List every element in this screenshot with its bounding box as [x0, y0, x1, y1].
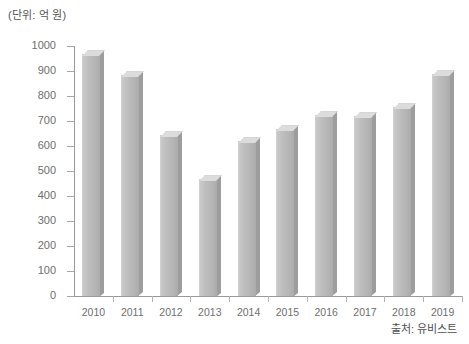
x-axis-tick [423, 296, 424, 302]
x-axis-tick [190, 296, 191, 302]
x-axis-tick [268, 296, 269, 302]
y-axis-tick-label: 400 [38, 189, 56, 201]
bar-front-face [354, 116, 372, 296]
bar-2012 [160, 135, 177, 296]
x-axis-tick [346, 296, 347, 302]
bar-front-face [121, 75, 139, 296]
bar-front-face [276, 129, 294, 297]
bar-front-face [82, 54, 100, 297]
x-axis-tick [113, 296, 114, 302]
y-axis-line [74, 46, 75, 296]
y-axis-tick-label: 500 [38, 164, 56, 176]
bar-2014 [238, 141, 255, 296]
y-axis-tick-label: 600 [38, 139, 56, 151]
y-axis-tick-label: 700 [38, 114, 56, 126]
x-axis-label-2018: 2018 [392, 306, 415, 318]
bar-2018 [393, 107, 410, 296]
bar-2017 [354, 116, 371, 296]
x-axis-label-2015: 2015 [276, 306, 299, 318]
x-axis-tick [229, 296, 230, 302]
x-axis-tick [462, 296, 463, 302]
unit-label: (단위: 억 원) [8, 6, 66, 22]
y-axis-tick: 300 [67, 221, 74, 222]
y-axis-tick: 600 [67, 146, 74, 147]
y-axis-tick: 1000 [67, 46, 74, 47]
bar-2010 [82, 54, 99, 297]
y-axis-tick: 900 [67, 71, 74, 72]
y-axis-tick: 400 [67, 196, 74, 197]
bar-2019 [432, 74, 449, 297]
bar-front-face [432, 74, 450, 297]
y-axis-tick: 200 [67, 246, 74, 247]
bar-front-face [393, 107, 411, 296]
y-axis-tick: 0 [67, 296, 74, 297]
x-axis-label-2012: 2012 [159, 306, 182, 318]
x-axis-label-2013: 2013 [198, 306, 221, 318]
bar-front-face [160, 135, 178, 296]
x-axis-tick [307, 296, 308, 302]
bar-2016 [315, 115, 332, 296]
y-axis-tick: 100 [67, 271, 74, 272]
bar-2015 [276, 129, 293, 297]
x-axis-label-2016: 2016 [315, 306, 338, 318]
x-axis-label-2014: 2014 [237, 306, 260, 318]
y-axis-tick-label: 1000 [32, 39, 56, 51]
y-axis-tick-label: 200 [38, 239, 56, 251]
x-axis-label-2019: 2019 [431, 306, 454, 318]
y-axis-tick-label: 900 [38, 64, 56, 76]
bar-front-face [238, 141, 256, 296]
bar-chart: (단위: 억 원) 010020030040050060070080090010… [0, 0, 469, 344]
y-axis-tick: 700 [67, 121, 74, 122]
y-axis-tick-label: 800 [38, 89, 56, 101]
bar-2013 [199, 179, 216, 297]
bar-2011 [121, 75, 138, 296]
y-axis-tick: 500 [67, 171, 74, 172]
y-axis-tick-label: 100 [38, 264, 56, 276]
x-axis-tick [384, 296, 385, 302]
bar-front-face [199, 179, 217, 297]
y-axis-tick: 800 [67, 96, 74, 97]
plot-area: 01002003004005006007008009001000 2010201… [74, 40, 462, 296]
x-axis-tick [152, 296, 153, 302]
x-axis-label-2011: 2011 [121, 306, 144, 318]
x-axis-label-2010: 2010 [82, 306, 105, 318]
source-label: 출처: 유비스트 [391, 320, 457, 336]
bar-front-face [315, 115, 333, 296]
y-axis-tick-label: 0 [50, 289, 56, 301]
x-axis-label-2017: 2017 [353, 306, 376, 318]
y-axis-tick-label: 300 [38, 214, 56, 226]
